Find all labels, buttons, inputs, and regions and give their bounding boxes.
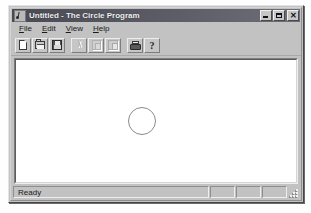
title-bar[interactable]: Untitled - The Circle Program ✕ xyxy=(12,9,300,22)
copy-pages-icon xyxy=(92,40,101,50)
menu-item-help[interactable]: Help xyxy=(88,23,114,35)
status-message: Ready xyxy=(13,186,209,198)
floppy-disk-icon xyxy=(52,40,62,50)
num-lock-pane xyxy=(236,186,261,198)
menu-file-rest: ile xyxy=(24,24,32,33)
maximize-button[interactable] xyxy=(273,10,285,21)
clipboard-icon xyxy=(108,40,118,50)
menu-item-file[interactable]: File xyxy=(14,23,37,35)
toolbar-button-print[interactable] xyxy=(127,38,143,53)
menu-bar: File Edit View Help xyxy=(11,23,301,35)
application-window: Untitled - The Circle Program ✕ File Edi… xyxy=(8,5,304,203)
caps-lock-pane xyxy=(210,186,235,198)
toolbar-button-save[interactable] xyxy=(49,38,65,53)
menu-help-rest: elp xyxy=(99,24,110,33)
screen: Untitled - The Circle Program ✕ File Edi… xyxy=(0,0,311,213)
open-folder-icon xyxy=(35,41,45,49)
document-canvas[interactable] xyxy=(15,59,297,183)
menu-item-view[interactable]: View xyxy=(61,23,88,35)
scissors-icon xyxy=(75,40,84,50)
printer-icon xyxy=(130,41,141,50)
resize-grip[interactable] xyxy=(289,186,299,198)
client-area-border xyxy=(14,58,298,184)
new-document-icon xyxy=(19,40,27,50)
toolbar-button-about[interactable]: ? xyxy=(144,38,160,53)
close-button[interactable]: ✕ xyxy=(287,10,299,21)
toolbar-button-cut[interactable] xyxy=(71,38,87,53)
circle-program-icon xyxy=(14,10,26,22)
menu-view-rest: iew xyxy=(71,24,83,33)
scroll-lock-pane xyxy=(262,186,287,198)
toolbar-button-open[interactable] xyxy=(32,38,48,53)
minimize-button[interactable] xyxy=(260,10,272,21)
close-icon: ✕ xyxy=(290,11,297,20)
window-inner: Untitled - The Circle Program ✕ File Edi… xyxy=(10,7,302,201)
toolbar: ? xyxy=(11,35,301,56)
circle-shape[interactable] xyxy=(128,107,156,135)
menu-item-edit[interactable]: Edit xyxy=(37,23,61,35)
window-controls: ✕ xyxy=(260,10,299,21)
toolbar-button-new[interactable] xyxy=(15,38,31,53)
menu-edit-rest: dit xyxy=(47,24,55,33)
toolbar-button-paste[interactable] xyxy=(105,38,121,53)
status-bar: Ready xyxy=(12,185,300,199)
window-title: Untitled - The Circle Program xyxy=(29,9,260,22)
toolbar-button-copy[interactable] xyxy=(88,38,104,53)
question-mark-icon: ? xyxy=(147,40,158,51)
